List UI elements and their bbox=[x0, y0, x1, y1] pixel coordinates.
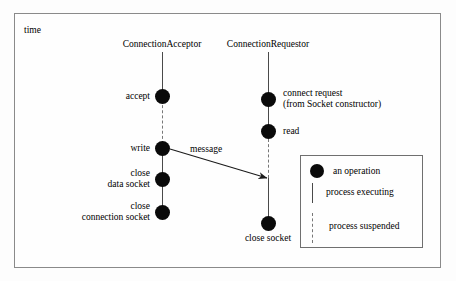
operation-label-write: write bbox=[62, 143, 150, 154]
lifeline-segment-acceptor-executing-1 bbox=[162, 52, 163, 92]
legend-label-process-executing: process executing bbox=[326, 187, 394, 198]
operation-label-close-data-socket-line2: data socket bbox=[108, 179, 150, 189]
operation-label-close-socket: close socket bbox=[229, 233, 307, 244]
operation-node-read[interactable] bbox=[261, 124, 276, 139]
operation-label-connect-request-line1: connect request bbox=[283, 88, 342, 98]
operation-label-close-connection-socket-line2: connection socket bbox=[82, 212, 150, 222]
lifeline-segment-requestor-executing-3 bbox=[268, 178, 269, 219]
operation-label-connect-request: connect request(from Socket constructor) bbox=[283, 88, 381, 110]
operation-node-close-data-socket[interactable] bbox=[155, 172, 170, 187]
message-label: message bbox=[190, 144, 222, 155]
legend-label-process-suspended: process suspended bbox=[329, 221, 399, 232]
legend-dashed-line-icon bbox=[312, 213, 313, 243]
operation-node-close-connection-socket[interactable] bbox=[155, 205, 170, 220]
lifeline-segment-requestor-executing-2 bbox=[268, 106, 269, 126]
legend-solid-line-icon bbox=[312, 183, 313, 203]
operation-label-close-connection-socket-line1: close bbox=[130, 201, 150, 211]
lifeline-title-requestor: ConnectionRequestor bbox=[206, 39, 330, 50]
legend-box: an operation process executing process s… bbox=[300, 155, 423, 248]
lifeline-segment-requestor-executing-1 bbox=[268, 52, 269, 95]
operation-label-close-data-socket: closedata socket bbox=[42, 168, 150, 190]
operation-label-accept: accept bbox=[62, 91, 150, 102]
operation-node-write[interactable] bbox=[155, 141, 170, 156]
operation-node-close-socket[interactable] bbox=[261, 216, 276, 231]
operation-label-close-data-socket-line1: close bbox=[130, 168, 150, 178]
operation-node-connect-request[interactable] bbox=[261, 92, 276, 107]
legend-operation-dot-icon bbox=[310, 164, 324, 178]
sequence-diagram-canvas: time ConnectionAcceptor accept write clo… bbox=[0, 0, 456, 281]
operation-label-connect-request-line2: (from Socket constructor) bbox=[283, 99, 381, 109]
operation-label-read: read bbox=[283, 126, 299, 137]
legend-label-operation: an operation bbox=[333, 166, 380, 177]
time-axis-label: time bbox=[24, 25, 41, 36]
lifeline-segment-requestor-suspended-1 bbox=[268, 139, 269, 178]
lifeline-segment-acceptor-suspended-1 bbox=[162, 100, 163, 144]
operation-node-accept[interactable] bbox=[155, 89, 170, 104]
operation-label-close-connection-socket: closeconnection socket bbox=[28, 201, 150, 223]
